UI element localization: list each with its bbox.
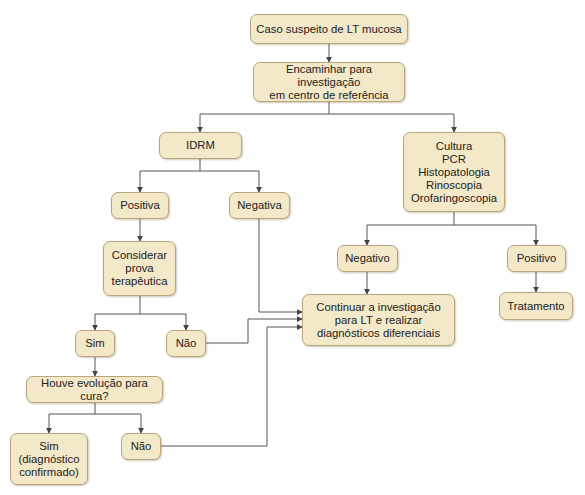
- node-label: IDRM: [186, 139, 215, 152]
- connector-arrow: [206, 319, 302, 343]
- node-exames: Cultura PCR Histopatologia Rinoscopia Or…: [403, 132, 505, 212]
- connector-arrow: [200, 102, 329, 132]
- connector-arrow: [95, 414, 141, 433]
- connector-arrow: [367, 212, 454, 245]
- node-idrm: IDRM: [159, 132, 242, 159]
- node-nao: Não: [166, 330, 206, 357]
- node-label: Continuar a investigação para LT e reali…: [316, 301, 440, 340]
- node-label: Cultura PCR Histopatologia Rinoscopia Or…: [411, 140, 497, 205]
- connector-arrow: [95, 296, 140, 330]
- node-label: Positivo: [517, 252, 557, 265]
- node-label: Sim (diagnóstico confirmado): [19, 440, 80, 479]
- node-houve-evolucao: Houve evolução para cura?: [26, 376, 163, 403]
- node-positivo: Positivo: [507, 245, 566, 272]
- node-label: Caso suspeito de LT mucosa: [256, 23, 401, 36]
- node-label: Considerar prova terapêutica: [112, 249, 168, 288]
- connector-arrow: [140, 314, 186, 330]
- node-label: Houve evolução para cura?: [30, 377, 159, 403]
- node-positiva: Positiva: [111, 192, 169, 219]
- node-label: Encaminhar para investigação em centro d…: [257, 63, 401, 102]
- node-label: Tratamento: [507, 300, 564, 313]
- node-label: Não: [131, 440, 152, 453]
- node-tratamento: Tratamento: [499, 292, 573, 320]
- node-label: Negativo: [345, 252, 390, 265]
- node-continuar-investigacao: Continuar a investigação para LT e reali…: [302, 294, 455, 346]
- connector-arrow: [329, 114, 454, 132]
- connector-arrow: [259, 219, 302, 312]
- node-sim-diagnostico-confirmado: Sim (diagnóstico confirmado): [10, 433, 88, 485]
- connector-arrow: [454, 225, 536, 245]
- node-label: Positiva: [120, 199, 160, 212]
- node-sim: Sim: [75, 330, 115, 357]
- connector-arrow: [49, 403, 95, 433]
- node-negativa: Negativa: [229, 192, 290, 219]
- node-encaminhar: Encaminhar para investigação em centro d…: [253, 62, 405, 102]
- node-negativo: Negativo: [337, 245, 398, 272]
- node-label: Sim: [85, 337, 104, 350]
- connector-arrow: [200, 171, 259, 192]
- node-nao-evolucao: Não: [121, 433, 161, 460]
- node-label: Não: [176, 337, 197, 350]
- connector-arrow: [140, 159, 200, 192]
- node-caso-suspeito: Caso suspeito de LT mucosa: [250, 14, 408, 44]
- node-label: Negativa: [237, 199, 282, 212]
- node-considerar-prova: Considerar prova terapêutica: [103, 241, 176, 296]
